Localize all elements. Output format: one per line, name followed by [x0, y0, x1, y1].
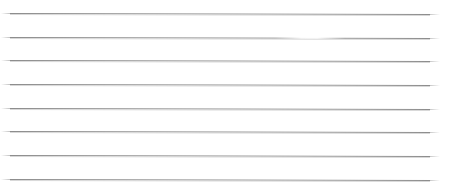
horizontal-rule [10, 84, 430, 86]
rule-break-gap [275, 37, 345, 40]
rule-right-fade [430, 109, 440, 110]
horizontal-rule [10, 131, 430, 133]
rule-right-fade [430, 132, 440, 133]
horizontal-rule [10, 60, 430, 62]
horizontal-rule [10, 179, 430, 181]
rule-left-fade [1, 13, 10, 14]
rule-left-fade [1, 108, 10, 109]
rule-left-fade [1, 155, 10, 156]
rule-left-fade [1, 84, 10, 85]
horizontal-rule [10, 37, 430, 39]
rule-left-fade [1, 131, 10, 132]
rule-right-fade [430, 156, 440, 157]
rule-right-fade [430, 85, 440, 86]
horizontal-rule [10, 13, 430, 15]
ruled-lines-canvas [0, 0, 449, 192]
rule-left-fade [1, 179, 10, 180]
horizontal-rule [10, 155, 430, 157]
rule-right-fade [430, 38, 440, 39]
horizontal-rule [10, 108, 430, 110]
rule-left-fade [1, 60, 10, 61]
rule-left-fade [1, 37, 10, 38]
rule-right-fade [430, 61, 440, 62]
rule-right-fade [430, 180, 440, 181]
rule-right-fade [430, 14, 440, 15]
